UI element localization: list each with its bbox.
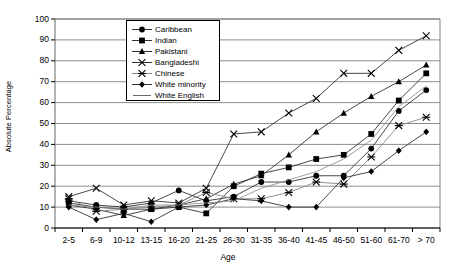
- legend-item: Chinese: [131, 68, 215, 79]
- marker-circle: [258, 179, 264, 185]
- marker-square: [203, 210, 209, 216]
- marker-circle: [139, 27, 145, 33]
- marker-triangle: [203, 195, 209, 201]
- marker-diamond: [139, 81, 145, 88]
- chart-legend: CaribbeanIndianPakistaniBangladeshiChine…: [126, 20, 220, 101]
- legend-key-glyph: [132, 38, 152, 44]
- plot-area: [0, 0, 456, 275]
- marker-diamond: [286, 204, 292, 211]
- legend-marker-cross-x: [131, 57, 153, 68]
- marker-circle: [368, 146, 374, 152]
- series-line: [69, 73, 427, 213]
- legend-label: Chinese: [153, 68, 184, 79]
- y-tick-label: 80: [23, 56, 49, 65]
- legend-marker-star-x: [131, 68, 153, 79]
- legend-marker-square: [131, 35, 153, 46]
- marker-square: [139, 38, 145, 44]
- marker-diamond: [148, 218, 154, 225]
- marker-diamond: [423, 129, 429, 136]
- legend-item: Caribbean: [131, 24, 215, 35]
- legend-label: Indian: [153, 35, 177, 46]
- y-tick-label: 60: [23, 98, 49, 107]
- legend-item: Bangladeshi: [131, 57, 215, 68]
- marker-triangle: [286, 151, 292, 157]
- legend-marker-none: [131, 90, 153, 101]
- legend-label: White English: [153, 90, 204, 101]
- legend-marker-circle: [131, 24, 153, 35]
- marker-triangle: [423, 62, 429, 68]
- marker-triangle: [368, 93, 374, 99]
- x-tick-label: > 70: [408, 236, 446, 245]
- marker-triangle: [313, 128, 319, 134]
- y-tick-label: 90: [23, 35, 49, 44]
- marker-square: [313, 156, 319, 162]
- y-tick-label: 30: [23, 161, 49, 170]
- legend-key-glyph: [132, 48, 152, 54]
- marker-circle: [313, 173, 319, 179]
- y-axis-title-text: Absolute Percentage: [5, 80, 14, 152]
- chart-figure: Absolute Percentage 01020304050607080901…: [0, 0, 456, 275]
- legend-item: White minority: [131, 79, 215, 90]
- y-tick-label: 50: [23, 119, 49, 128]
- y-tick-label: 0: [23, 224, 49, 233]
- marker-diamond: [368, 168, 374, 175]
- marker-diamond: [396, 147, 402, 154]
- marker-square: [368, 131, 374, 137]
- legend-marker-diamond: [131, 79, 153, 90]
- legend-key-glyph: [132, 81, 152, 88]
- series-white-minority: [66, 129, 429, 225]
- marker-square: [286, 164, 292, 170]
- legend-label: Bangladeshi: [153, 57, 199, 68]
- series-line: [69, 65, 427, 215]
- legend-key-glyph: [132, 27, 152, 33]
- legend-item: Indian: [131, 35, 215, 46]
- y-tick-label: 10: [23, 203, 49, 212]
- series-caribbean: [66, 87, 429, 210]
- marker-triangle: [341, 110, 347, 116]
- legend-label: Pakistani: [153, 46, 187, 57]
- y-tick-label: 40: [23, 140, 49, 149]
- marker-square: [396, 98, 402, 104]
- marker-circle: [423, 87, 429, 93]
- x-axis-title: Age: [0, 252, 456, 262]
- marker-square: [423, 70, 429, 76]
- marker-square: [341, 152, 347, 158]
- y-axis-title: Absolute Percentage: [0, 0, 18, 232]
- series-bangladeshi: [65, 32, 429, 208]
- y-tick-label: 20: [23, 182, 49, 191]
- legend-item: White English: [131, 90, 215, 101]
- legend-marker-triangle: [131, 46, 153, 57]
- y-tick-label: 100: [23, 15, 49, 24]
- y-tick-label: 70: [23, 77, 49, 86]
- legend-item: Pakistani: [131, 46, 215, 57]
- marker-diamond: [93, 216, 99, 223]
- marker-circle: [176, 187, 182, 193]
- legend-key-glyph: [132, 70, 152, 77]
- legend-label: White minority: [153, 79, 206, 90]
- legend-label: Caribbean: [153, 24, 192, 35]
- legend-key-glyph: [132, 59, 152, 66]
